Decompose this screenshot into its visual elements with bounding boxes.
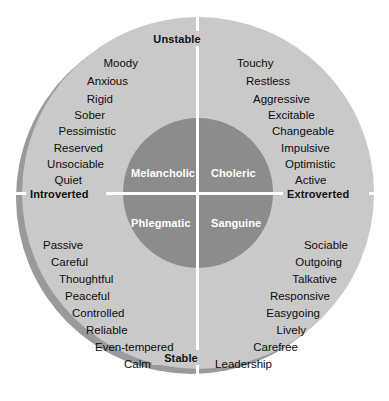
trait-label: Easygoing <box>266 308 320 320</box>
trait-label: Leadership <box>215 359 272 371</box>
trait-label: Reserved <box>54 143 103 155</box>
vertical-axis-line <box>196 12 199 389</box>
trait-label: Impulsive <box>281 143 330 155</box>
trait-label: Changeable <box>272 126 334 138</box>
personality-circumplex-diagram: Unstable Stable Introverted Extroverted … <box>0 0 389 401</box>
axis-pole-unstable: Unstable <box>153 33 200 45</box>
axis-pole-extroverted: Extroverted <box>287 188 349 200</box>
trait-label: Aggressive <box>253 94 310 106</box>
trait-label: Outgoing <box>295 257 342 269</box>
temperament-label-melancholic: Melancholic <box>131 167 195 179</box>
trait-label: Rigid <box>87 94 113 106</box>
axis-pole-stable: Stable <box>164 352 198 364</box>
trait-label: Touchy <box>237 58 273 70</box>
trait-label: Anxious <box>87 76 128 88</box>
trait-label: Calm <box>124 359 151 371</box>
trait-label: Quiet <box>55 175 83 187</box>
trait-label: Thoughtful <box>59 274 113 286</box>
trait-label: Controlled <box>72 308 124 320</box>
trait-label: Even-tempered <box>95 342 174 354</box>
trait-label: Reliable <box>86 325 128 337</box>
trait-label: Lively <box>277 325 306 337</box>
trait-label: Active <box>295 175 326 187</box>
temperament-label-sanguine: Sanguine <box>211 217 261 229</box>
temperament-label-choleric: Choleric <box>211 167 256 179</box>
trait-label: Careful <box>51 257 88 269</box>
trait-label: Unsociable <box>47 159 104 171</box>
trait-label: Sociable <box>304 240 348 252</box>
trait-label: Talkative <box>292 274 337 286</box>
trait-label: Carefree <box>253 342 298 354</box>
trait-label: Optimistic <box>285 159 335 171</box>
temperament-label-phlegmatic: Phlegmatic <box>131 217 191 229</box>
trait-label: Restless <box>246 76 290 88</box>
trait-label: Peaceful <box>65 291 110 303</box>
trait-label: Pessimistic <box>58 126 116 138</box>
trait-label: Passive <box>43 240 83 252</box>
trait-label: Moody <box>103 58 138 70</box>
trait-label: Excitable <box>268 110 315 122</box>
trait-label: Sober <box>74 110 105 122</box>
trait-label: Responsive <box>270 291 330 303</box>
axis-pole-introverted: Introverted <box>30 188 89 200</box>
